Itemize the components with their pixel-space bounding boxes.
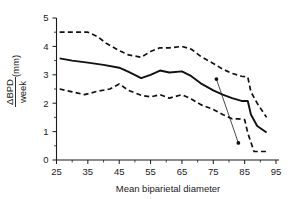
- x-tick-label: 25: [51, 166, 62, 177]
- x-axis-title-text: Mean biparietal diameter: [116, 183, 221, 194]
- annotation-endpoint-marker: [236, 141, 240, 145]
- y-tick-label: 5: [43, 12, 48, 23]
- x-tick-label: 85: [239, 166, 250, 177]
- y-tick-label: 0: [43, 154, 48, 165]
- x-axis-title: Mean biparietal diameter: [116, 183, 221, 194]
- y-tick-label: 3: [43, 69, 48, 80]
- x-tick-label: 75: [208, 166, 219, 177]
- y-tick-label: 4: [43, 41, 48, 52]
- y-tick-label: 1: [43, 126, 48, 137]
- x-tick-label: 55: [145, 166, 156, 177]
- chart-figure: 2535455565758595 012345 Mean biparietal …: [0, 0, 303, 199]
- y-axis-numerator-text: ΔBPD: [4, 79, 15, 105]
- x-tick-label: 95: [271, 166, 282, 177]
- y-tick-label: 2: [43, 98, 48, 109]
- x-tick-label: 35: [83, 166, 94, 177]
- bpd-growth-chart: 2535455565758595 012345 Mean biparietal …: [0, 0, 303, 199]
- x-tick-label: 45: [114, 166, 125, 177]
- y-axis-denominator-text: week: [17, 81, 28, 104]
- x-tick-label: 65: [177, 166, 188, 177]
- annotation-endpoint-marker: [215, 77, 219, 81]
- y-axis-units-text: (mm): [10, 55, 21, 77]
